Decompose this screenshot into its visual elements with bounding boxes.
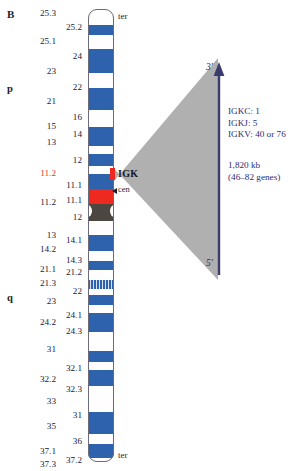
gene-count-line: IGKC: 1 [228, 106, 286, 118]
centromere-notch [110, 205, 114, 217]
chromosome-band [88, 370, 114, 386]
chromosome-band [88, 110, 114, 127]
locus-size-annotation: 1,820 kb(46–82 genes) [228, 160, 280, 183]
chromosome-band [88, 221, 114, 235]
chromosome-band-stack [88, 9, 114, 462]
chromosome-band [88, 251, 114, 261]
band-label-inner: 25.2 [56, 23, 82, 32]
chromosome-band [88, 25, 114, 35]
band-label-inner: 16 [56, 113, 82, 122]
chromosome-band [88, 235, 114, 251]
band-label-inner: 32.1 [56, 364, 82, 373]
locus-size-line: (46–82 genes) [228, 172, 280, 184]
band-label-outer: 23 [28, 297, 56, 306]
band-label-outer: 13 [28, 138, 56, 147]
chromosome-band [88, 49, 114, 73]
band-label-outer: 11.2 [28, 198, 56, 207]
band-label-inner: 24.1 [56, 311, 82, 320]
cen-pointer-icon [112, 188, 117, 194]
chromosome-band [88, 444, 114, 458]
gene-count-line: IGKJ: 5 [228, 118, 286, 130]
panel-letter: B [7, 8, 15, 20]
band-label-outer: 21.1 [28, 265, 56, 274]
band-label-inner: 14.1 [56, 236, 82, 245]
band-label-inner: 21.2 [56, 268, 82, 277]
band-label-outer: 13 [28, 231, 56, 240]
band-label-outer: 21.3 [28, 279, 56, 288]
band-label-inner: 11.1 [56, 196, 82, 205]
igk-gene-label: IGK [118, 168, 138, 179]
band-label-inner: 24.3 [56, 327, 82, 336]
chromosome-band [88, 35, 114, 49]
chromosome-ideogram [88, 9, 114, 462]
chromosome-band [88, 280, 114, 289]
chromosome-band [88, 88, 114, 110]
gene-count-annotation: IGKC: 1IGKJ: 5IGKV: 40 or 76 [228, 106, 286, 141]
band-label-outer: 32.2 [28, 375, 56, 384]
chromosome-band [88, 351, 114, 362]
band-label-inner: 32.3 [56, 385, 82, 394]
gene-count-line: IGKV: 40 or 76 [228, 129, 286, 141]
orientation-axis-arrow [210, 60, 228, 275]
chromosome-band [88, 9, 114, 25]
chromosome-band [88, 127, 114, 146]
chromosome-band [88, 270, 114, 280]
chromosome-band [88, 73, 114, 88]
chromosome-band [88, 154, 114, 166]
band-label-inner: 22 [56, 287, 82, 296]
band-label-inner: 11.1 [56, 181, 82, 190]
band-label-outer: 25.1 [28, 37, 56, 46]
band-label-inner: 12 [56, 213, 82, 222]
band-label-outer: 15 [28, 122, 56, 131]
figure-canvas: B p q 25.325.12321151311.211.21314.221.1… [0, 0, 305, 471]
chromosome-band [88, 261, 114, 270]
chromosome-band [88, 332, 114, 351]
band-label-outer: 21 [28, 97, 56, 106]
chromosome-band-highlight [88, 189, 114, 204]
band-label-outer: 31 [28, 345, 56, 354]
band-label-inner: 36 [56, 437, 82, 446]
chromosome-band [88, 434, 114, 444]
band-label-outer: 23 [28, 67, 56, 76]
band-label-inner: 31 [56, 411, 82, 420]
band-label-outer: 33 [28, 397, 56, 406]
cen-label: cen [118, 185, 130, 194]
band-label-inner: 37.2 [56, 456, 82, 465]
arm-label-q: q [7, 292, 13, 303]
chromosome-band [88, 412, 114, 434]
igk-marker-icon [110, 168, 115, 180]
band-label-inner: 14 [56, 130, 82, 139]
chromosome-band [88, 313, 114, 332]
arm-label-p: p [7, 83, 13, 94]
chromosome-band [88, 146, 114, 154]
band-label-inner: 24 [56, 52, 82, 61]
ter-label-bottom: ter [118, 450, 128, 460]
chromosome-band [88, 295, 114, 305]
band-label-inner: 22 [56, 83, 82, 92]
band-label-outer: 11.2 [28, 169, 56, 178]
prime-label-3: 3' [206, 62, 213, 72]
band-label-outer: 24.2 [28, 318, 56, 327]
band-label-inner: 14.3 [56, 256, 82, 265]
band-label-outer: 14.2 [28, 245, 56, 254]
chromosome-band [88, 362, 114, 370]
band-label-inner: 12 [56, 156, 82, 165]
band-label-outer: 35 [28, 422, 56, 431]
prime-label-5: 5' [206, 258, 213, 268]
band-label-outer: 25.3 [28, 9, 56, 18]
chromosome-band [88, 386, 114, 412]
band-label-outer: 37.3 [28, 460, 56, 469]
band-label-outer: 37.1 [28, 447, 56, 456]
ter-label-top: ter [118, 11, 128, 21]
chromosome-band [88, 305, 114, 313]
locus-size-line: 1,820 kb [228, 160, 280, 172]
chromosome-band [88, 458, 114, 462]
